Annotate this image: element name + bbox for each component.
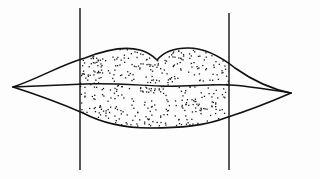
- stipple-dot: [129, 46, 130, 47]
- stipple-dot: [160, 122, 161, 123]
- stipple-dot: [140, 63, 141, 64]
- stipple-dot: [137, 125, 138, 126]
- stipple-dot: [221, 72, 222, 73]
- stipple-dot: [81, 102, 82, 103]
- stipple-dot: [131, 80, 132, 81]
- stipple-dot: [136, 57, 137, 58]
- stipple-dot: [93, 129, 94, 130]
- stipple-dot: [184, 46, 185, 47]
- stipple-dot: [224, 45, 225, 46]
- stipple-dot: [140, 90, 141, 91]
- stipple-dot: [152, 71, 153, 72]
- stipple-dot: [172, 81, 173, 82]
- stipple-dot: [176, 105, 177, 106]
- stipple-dot: [122, 111, 123, 112]
- stipple-dot: [163, 93, 164, 94]
- stipple-dot: [222, 109, 223, 110]
- stipple-dot: [180, 62, 181, 63]
- stipple-dot: [201, 108, 202, 109]
- stipple-dot: [127, 49, 128, 50]
- stipple-dot: [203, 108, 204, 109]
- stipple-dot: [182, 59, 183, 60]
- stipple-dot: [85, 78, 86, 79]
- stipple-dot: [121, 86, 122, 87]
- stipple-dot: [146, 64, 147, 65]
- stipple-dot: [96, 45, 97, 46]
- stipple-dot: [132, 46, 133, 47]
- stipple-dot: [198, 105, 199, 106]
- stipple-dot: [84, 62, 85, 63]
- stipple-dot: [152, 66, 153, 67]
- stipple-dot: [124, 62, 125, 63]
- stipple-dot: [142, 54, 143, 55]
- stipple-dot: [96, 62, 97, 63]
- stipple-dot: [147, 108, 148, 109]
- stipple-dot: [102, 89, 103, 90]
- stipple-dot: [191, 66, 192, 67]
- stipple-dot: [151, 88, 152, 89]
- stipple-dot: [186, 102, 187, 103]
- stipple-dot: [225, 51, 226, 52]
- stipple-dot: [116, 58, 117, 59]
- stipple-dot: [171, 77, 172, 78]
- stipple-dot: [148, 92, 149, 93]
- stipple-dot: [224, 113, 225, 114]
- stipple-dot: [92, 120, 93, 121]
- stipple-dot: [94, 87, 95, 88]
- stipple-dot: [211, 96, 212, 97]
- stipple-dot: [224, 121, 225, 122]
- stipple-dot: [149, 58, 150, 59]
- stipple-dot: [97, 72, 98, 73]
- stipple-dot: [96, 87, 97, 88]
- stipple-dot: [112, 78, 113, 79]
- stipple-dot: [204, 129, 205, 130]
- stipple-dot: [178, 45, 179, 46]
- stipple-dot: [213, 93, 214, 94]
- stipple-dot: [187, 99, 188, 100]
- stipple-dot: [173, 51, 174, 52]
- stipple-dot: [160, 68, 161, 69]
- stipple-dot: [110, 97, 111, 98]
- stipple-dot: [110, 89, 111, 90]
- stipple-dot: [181, 91, 182, 92]
- stipple-dot: [181, 59, 182, 60]
- stipple-dot: [212, 126, 213, 127]
- stipple-dot: [118, 95, 119, 96]
- stipple-dot: [225, 69, 226, 70]
- stipple-dot: [163, 88, 164, 89]
- stipple-dot: [140, 53, 141, 54]
- stipple-dot: [153, 79, 154, 80]
- stipple-dot: [149, 88, 150, 89]
- stipple-dot: [149, 66, 150, 67]
- stipple-dot: [92, 56, 93, 57]
- stipple-dot: [87, 80, 88, 81]
- stipple-dot: [179, 44, 180, 45]
- stipple-dot: [167, 101, 168, 102]
- stipple-dot: [178, 119, 179, 120]
- stipple-dot: [214, 67, 215, 68]
- stipple-dot: [152, 121, 153, 122]
- stipple-dot: [150, 111, 151, 112]
- stipple-dot: [127, 46, 128, 47]
- stipple-dot: [182, 105, 183, 106]
- stipple-dot: [146, 59, 147, 60]
- stipple-dot: [211, 105, 212, 106]
- stipple-dot: [144, 123, 145, 124]
- stipple-dot: [192, 124, 193, 125]
- stipple-dot: [124, 57, 125, 58]
- stipple-dot: [83, 60, 84, 61]
- stipple-dot: [218, 118, 219, 119]
- stipple-dot: [83, 73, 84, 74]
- stipple-dot: [103, 95, 104, 96]
- stipple-dot: [82, 46, 83, 47]
- stipple-dot: [194, 74, 195, 75]
- stipple-dot: [94, 108, 95, 109]
- stipple-dot: [224, 65, 225, 66]
- stipple-dot: [208, 87, 209, 88]
- stipple-dot: [96, 49, 97, 50]
- stipple-dot: [82, 65, 83, 66]
- stipple-dot: [151, 100, 152, 101]
- stipple-dot: [171, 54, 172, 55]
- stipple-dot: [169, 56, 170, 57]
- stipple-dot: [223, 53, 224, 54]
